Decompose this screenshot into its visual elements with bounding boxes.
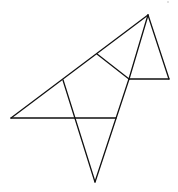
artifact-dot	[167, 1, 169, 3]
edge-top-inner-diagonal	[129, 15, 148, 79]
net-diagram	[0, 0, 178, 192]
edge-left-diagonal	[63, 80, 95, 182]
edge-inner-upper-fold	[97, 54, 129, 79]
edge-top-right-outer	[148, 15, 169, 79]
edge-right-diagonal	[95, 79, 129, 182]
edge-left-hypotenuse	[11, 15, 148, 118]
